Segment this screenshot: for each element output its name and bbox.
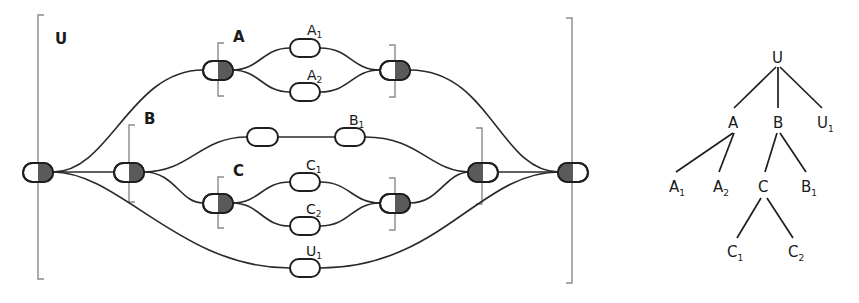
tree-edge-B-C [765,133,777,172]
bracket-U-open [38,15,44,279]
tree-node-C1: C1 [727,243,743,263]
wire-C2-to-Cjoin [320,203,380,226]
node-B-join [468,163,498,182]
slot-node-B [247,128,278,146]
wire-U-to-A [53,70,203,172]
wire-C-to-C1 [232,182,290,203]
wire-U1-to-Ujoin [320,172,559,268]
wire-U-to-U1 [53,172,290,268]
node-A-split [203,61,233,80]
node-C-split [203,194,233,213]
group-labels: U A B C [55,28,245,180]
wire-B-to-B1slot [144,137,247,172]
tree-edge-A-A1 [676,133,733,172]
leaf-label-C2: C2 [306,201,322,219]
group-label-B: B [144,110,155,128]
tree-edge-U-A [734,67,776,108]
leaf-node-B1 [335,128,365,146]
nested-region-diagram: U A B C A1 A2 B1 C1 C2 U1 U A B U1 A1 A2… [0,0,859,303]
group-label-A: A [233,28,245,46]
tree-node-U1: U1 [817,114,834,134]
wire-B1-to-Bjoin [365,137,470,172]
tree-edge-U-U1 [780,67,822,108]
wire-C1-to-Cjoin [320,182,380,203]
wire-C-to-C2 [232,203,290,226]
tree-edge-A-A2 [719,133,734,172]
tree-node-A: A [728,114,739,132]
leaf-label-C1: C1 [306,157,322,175]
wire-A1-to-Ajoin [320,48,380,70]
group-label-C: C [233,162,244,180]
node-A-join [380,61,410,80]
leaf-label-B1: B1 [349,112,364,130]
node-U-split [23,163,53,182]
tree-node-B: B [773,114,783,132]
tree-node-C2: C2 [788,243,804,263]
leaf-label-A2: A2 [307,67,322,85]
leaf-node-U1 [290,259,320,277]
leaf-node-A1 [290,39,320,57]
tree-edge-C-C2 [767,198,793,238]
wire-Ajoin-to-Ujoin [410,70,559,172]
leaf-label-A1: A1 [307,22,322,40]
bracket-U-close [566,18,572,283]
node-B-split [114,163,144,182]
leaf-label-U1: U1 [306,243,322,261]
wire-Cjoin-to-Bjoin [410,172,470,203]
wire-A2-to-Ajoin [320,70,380,92]
tree-edge-B-B1 [780,133,806,172]
wire-A-to-A2 [232,70,290,92]
hierarchy-tree: U A B U1 A1 A2 C B1 C1 C2 [669,49,834,263]
tree-node-A2: A2 [713,178,729,198]
leaf-node-A2 [290,83,320,101]
tree-node-B1: B1 [801,178,817,198]
wire-A-to-A1 [232,48,290,70]
wire-B-to-C [144,172,203,203]
tree-node-A1: A1 [669,178,685,198]
tree-edge-C-C1 [737,198,761,238]
node-C-join [380,194,410,213]
tree-node-U: U [772,49,783,67]
group-label-U: U [55,30,67,48]
leaf-node-C1 [290,173,320,191]
node-U-join [558,163,588,182]
leaf-node-C2 [290,217,320,235]
tree-node-C: C [758,178,768,196]
